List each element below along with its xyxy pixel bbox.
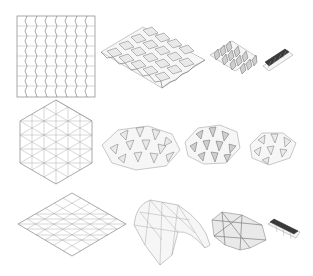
miura-fully-folded (263, 49, 293, 71)
miura-partially-folded (101, 27, 205, 88)
crumpled-shell (212, 212, 266, 250)
hexagon-mostly-folded (185, 125, 240, 164)
curved-fully-folded (268, 219, 300, 239)
hexagon-partially-folded (102, 126, 180, 170)
hexagon-crease-pattern (20, 100, 92, 184)
curved-shell (134, 200, 210, 265)
miura-mostly-folded (210, 41, 257, 74)
diamond-crease-pattern (18, 193, 126, 256)
miura-crease-pattern (17, 16, 95, 97)
origami-figure (0, 0, 313, 276)
hexagon-fully-folded (250, 133, 296, 165)
